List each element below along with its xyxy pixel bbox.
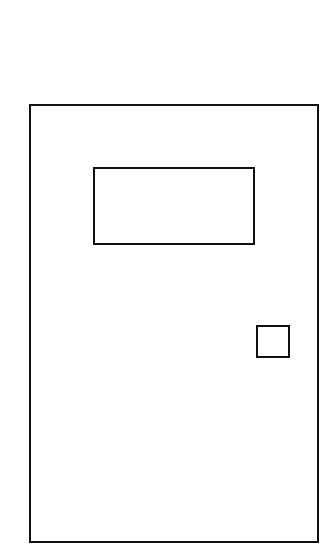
door-handle-icon [256, 325, 290, 358]
door-window [93, 167, 255, 245]
drawing-canvas [0, 0, 335, 548]
